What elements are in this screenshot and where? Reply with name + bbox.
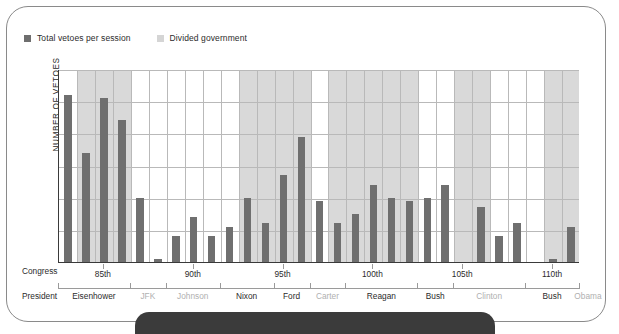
bar [477,207,485,262]
bar [352,214,360,262]
bar [262,223,270,262]
chart-legend: Total vetoes per session Divided governm… [24,33,247,43]
bar [388,198,396,262]
plot-area: 0102030405060 [58,70,579,263]
president-label: Carter [316,291,339,301]
congress-tick-label: 95th [274,269,290,279]
congress-tick-label: 85th [95,269,111,279]
square-swatch-icon [157,35,164,42]
president-boundary-tick [579,283,580,289]
bar [567,227,575,262]
grid-line-horizontal [59,70,579,71]
bar [298,137,306,262]
bar [334,223,342,262]
legend-label: Total vetoes per session [37,33,131,43]
grid-line-horizontal [59,102,579,103]
legend-item-total-vetoes: Total vetoes per session [24,33,131,43]
bar [424,198,432,262]
bar [316,201,324,262]
president-axis-row: President EisenhowerJFKJohnsonNixonFordC… [0,291,619,311]
bar [208,236,216,262]
president-label: Reagan [367,291,396,301]
grid-line-horizontal [59,167,579,168]
president-label: Obama [574,291,601,301]
bar [441,185,449,262]
bar [495,236,503,262]
bar [280,175,288,262]
president-axis-label: President [22,291,57,301]
bar [226,227,234,262]
bar [100,98,108,262]
president-label: Bush [543,291,562,301]
congress-tick-label: 100th [362,269,383,279]
bar [244,198,252,262]
plot-area-wrapper: 0102030405060 [58,70,579,263]
bar [513,223,521,262]
bar [82,153,90,262]
bar [64,95,72,262]
president-label: Clinton [476,291,502,301]
bottom-panel [135,312,495,334]
bar [406,201,414,262]
president-label: Johnson [177,291,208,301]
president-label: Ford [283,291,300,301]
president-label: Bush [426,291,445,301]
congress-tick-label: 105th [452,269,473,279]
bar [118,120,126,262]
congress-axis-label: Congress [22,266,58,276]
bar [549,259,557,262]
bar [190,217,198,262]
president-label: Nixon [236,291,257,301]
grid-line-horizontal [59,134,579,135]
president-label: JFK [140,291,155,301]
bar [172,236,180,262]
congress-tick-label: 90th [185,269,201,279]
bar [136,198,144,262]
legend-label: Divided government [170,33,247,43]
legend-item-divided-government: Divided government [157,33,247,43]
square-swatch-icon [24,35,31,42]
congress-tick-label: 110th [542,269,562,279]
president-axis-rule [58,288,579,289]
president-label: Eisenhower [72,291,115,301]
bar [370,185,378,262]
congress-tick-group: 85th90th95th100th105th110th [58,264,579,271]
bar [154,259,162,262]
